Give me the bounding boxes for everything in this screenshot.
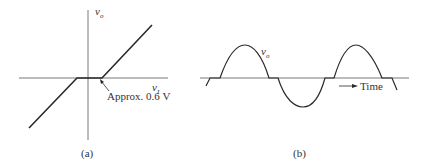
- panel-b-waveform-label: vo: [261, 46, 269, 60]
- panel-b-time-label: Time: [360, 81, 383, 92]
- panel-a-transfer-curve: [29, 25, 152, 128]
- panel-b-caption: (b): [293, 148, 306, 159]
- panel-b-waveform: [206, 45, 397, 107]
- panel-a-annotation: Approx. 0.6 V: [107, 91, 170, 102]
- time-arrowhead: [352, 84, 358, 88]
- panel-a-y-axis-label: vo: [95, 6, 103, 20]
- panel-a-caption: (a): [81, 148, 93, 159]
- annotation-arrowhead: [100, 79, 104, 84]
